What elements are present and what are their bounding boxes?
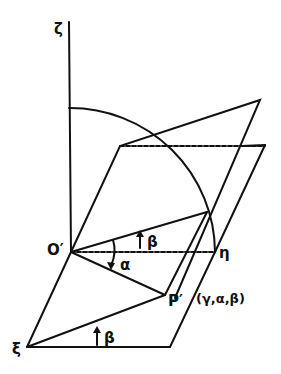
ray-op	[71, 252, 165, 295]
coords-label: (γ,α,β)	[196, 292, 245, 305]
plane-edge-right	[215, 145, 265, 252]
beta-arrowhead-lower	[93, 326, 101, 333]
origin-label: O′	[47, 243, 64, 258]
alpha-label: α	[120, 258, 130, 273]
beta-upper-label: β	[147, 235, 158, 250]
diagram-canvas	[0, 0, 281, 374]
zeta-axis	[69, 22, 71, 252]
alpha-arc	[111, 240, 115, 266]
zeta-label: ζ	[54, 22, 63, 37]
eta-label: η	[219, 246, 230, 261]
xi-label: ξ	[12, 342, 21, 357]
point-label: P′	[168, 294, 183, 309]
tilted-plane	[27, 100, 260, 347]
beta-lower-label: β	[104, 331, 115, 346]
